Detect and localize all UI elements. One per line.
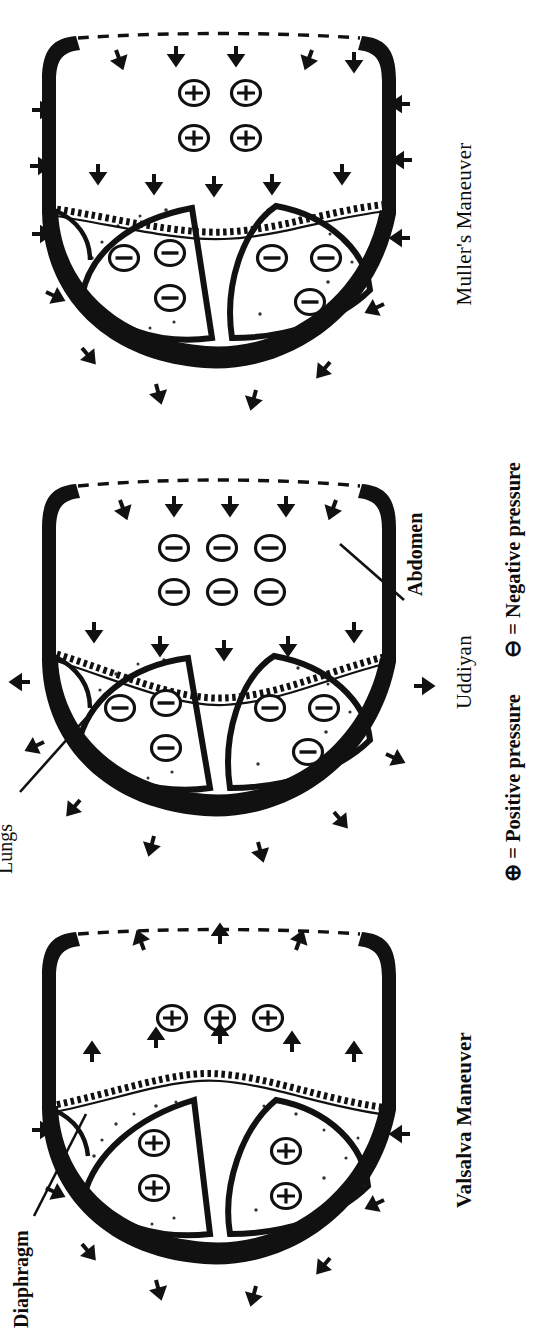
abdomen-symbol-group xyxy=(160,536,285,605)
arrow-group-diaphragm xyxy=(87,1026,360,1062)
arrow-group-abdominal-wall xyxy=(115,496,341,519)
label-diaphragm: Diaphragm xyxy=(10,1230,33,1328)
positive-pressure-text: = Positive pressure xyxy=(502,694,524,859)
panel-title-valsalva: Valsalva Maneuver xyxy=(452,896,477,1344)
torso-figure-uddiyan xyxy=(24,468,424,858)
negative-pressure-text: = Negative pressure xyxy=(502,462,524,635)
diagram-plate: Diaphragm Valsalva Maneuver xyxy=(0,0,555,1344)
panel-uddiyan: Lungs Abdomen Uddiyan xyxy=(0,448,555,896)
lung-symbol-group-upper xyxy=(140,1131,169,1201)
panel-muller: Muller's Maneuver xyxy=(0,0,555,448)
arrow-group-diaphragm xyxy=(93,164,348,194)
arrow-group-abdominal-wall xyxy=(111,46,360,70)
label-abdomen: Abdomen xyxy=(404,513,427,596)
positive-pressure-icon: ⊕ xyxy=(500,864,525,882)
lung-symbol-group-upper xyxy=(106,691,181,761)
lung-symbol-group-upper xyxy=(110,241,185,311)
torso-figure-valsalva xyxy=(24,916,424,1306)
abdomen-symbol-group xyxy=(180,81,261,151)
arrow-group-diaphragm xyxy=(89,622,360,658)
panel-valsalva: Diaphragm Valsalva Maneuver xyxy=(0,896,555,1344)
panel-title-muller: Muller's Maneuver xyxy=(452,0,477,448)
pressure-legend: ⊕ = Positive pressure ⊖ = Negative press… xyxy=(500,0,526,1344)
lung-symbol-group-lower xyxy=(272,1139,301,1209)
panel-title-uddiyan: Uddiyan xyxy=(452,448,477,896)
label-lungs: Lungs xyxy=(0,824,17,874)
torso-figure-muller xyxy=(24,20,424,410)
negative-pressure-icon: ⊖ xyxy=(500,640,525,658)
